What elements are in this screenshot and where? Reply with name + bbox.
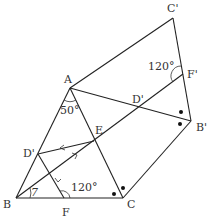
angle-label-F-prime: 120° — [148, 60, 175, 73]
arrow-down-icon — [55, 178, 61, 182]
label-F-prime: F' — [187, 68, 198, 81]
segments — [16, 18, 191, 198]
dot-marker — [178, 122, 182, 126]
dot-marker — [121, 186, 125, 190]
angle-arc-A — [64, 100, 76, 102]
label-E: E — [95, 124, 103, 137]
label-D-prime-left: D' — [23, 147, 35, 160]
segment-D-prime-E — [38, 141, 94, 154]
segment-A-C-prime — [70, 18, 173, 88]
angle-dots — [112, 110, 183, 196]
label-C: C — [127, 198, 135, 211]
label-B-prime: B' — [196, 121, 207, 134]
label-C-prime: C' — [167, 2, 178, 15]
label-D-prime-top: D' — [132, 93, 144, 106]
segment-A-B-prime — [70, 88, 191, 121]
dot-marker — [112, 192, 116, 196]
geometry-diagram: C' A F' D' B' E D' B F C 50° 120° 120° 7 — [0, 0, 213, 220]
dot-marker — [179, 110, 183, 114]
arrow-marks — [55, 145, 77, 182]
angle-label-F: 120° — [71, 181, 98, 194]
label-B: B — [3, 198, 11, 211]
angle-label-A: 50° — [60, 104, 80, 117]
segment-B-prime-C — [123, 121, 191, 198]
angle-label-B: 7 — [31, 186, 38, 199]
label-A: A — [63, 73, 73, 86]
label-F: F — [62, 206, 70, 219]
segment-D-prime-F — [38, 154, 64, 198]
